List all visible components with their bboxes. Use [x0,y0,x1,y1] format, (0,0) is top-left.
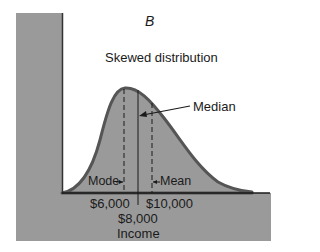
panel-letter: B [145,13,154,29]
x-axis-label: Income [117,226,160,241]
tick-label-8000: $8,000 [118,211,158,226]
mode-label: Mode [88,174,119,188]
tick-label-10000: $10,000 [146,196,193,211]
tick-label-6000: $6,000 [90,196,130,211]
mean-label: Mean [160,174,191,188]
figure-title: Skewed distribution [105,50,218,65]
median-label: Median [193,99,236,114]
